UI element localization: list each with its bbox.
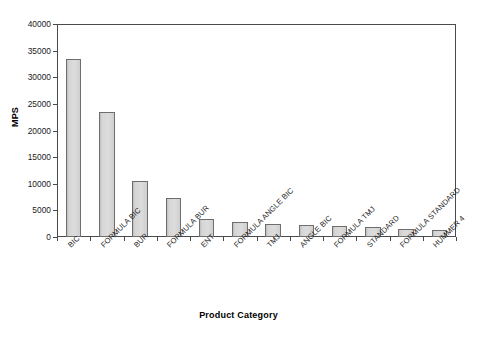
x-axis-category-label: FORMULA ANGLE BIC	[232, 186, 295, 249]
x-axis-category-label: STANDARD	[365, 213, 401, 249]
x-axis-category-label: TMJ	[265, 232, 282, 249]
bar-chart: 0500010000150002000025000300003500040000…	[0, 0, 477, 341]
x-axis-category-label: HUMMER 4	[431, 214, 467, 250]
x-axis-category-label: BUR	[132, 231, 150, 249]
x-axis-category-label: BIC	[66, 234, 82, 250]
x-axis-category-label: ENT	[199, 232, 216, 249]
x-axis-category-label: ANGLE BIC	[298, 214, 334, 250]
x-axis-labels: BICFORMULA BICBURFORMULA BURENTFORMULA A…	[0, 0, 477, 341]
x-axis-title: Product Category	[0, 310, 477, 320]
x-axis-category-label: FORMULA STANDARD	[398, 185, 462, 249]
